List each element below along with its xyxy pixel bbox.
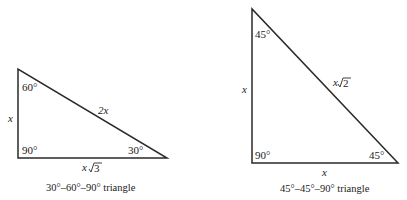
caption-45-45-90: 45°–45°–90° triangle [280, 183, 369, 194]
base-x-label-2: x [322, 167, 327, 178]
base-radicand-3: 3 [94, 163, 100, 174]
angle-30-label: 30° [128, 145, 143, 156]
hypotenuse-x-label: x [333, 77, 338, 88]
angle-45-bottom-label: 45° [369, 150, 384, 161]
caption-30-60-90: 30°–60°–90° triangle [46, 182, 135, 193]
angle-90-label-1: 90° [22, 145, 37, 156]
side-x-vertical-2: x [242, 84, 247, 95]
angle-90-label-2: 90° [255, 150, 270, 161]
triangles-drawing [0, 0, 407, 200]
hypotenuse-radicand-2: 2 [343, 78, 349, 89]
side-x-vertical-1: x [8, 113, 13, 124]
angle-60-label: 60° [22, 82, 37, 93]
hypotenuse-2x-label: 2x [98, 105, 108, 116]
triangle-30-60-90 [18, 69, 167, 158]
angle-45-top-label: 45° [255, 29, 270, 40]
triangle-45-45-90 [252, 9, 398, 163]
base-x-label-1: x [82, 162, 87, 173]
